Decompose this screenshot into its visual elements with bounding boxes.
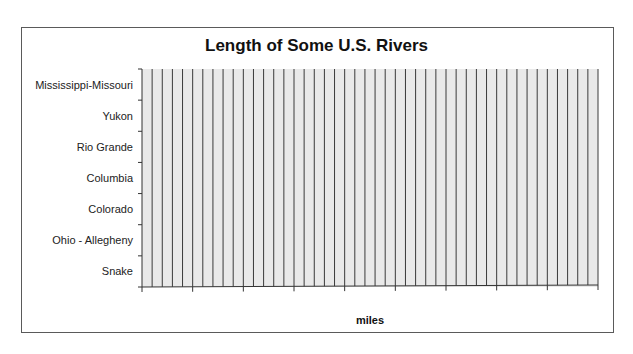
category-label: Yukon [102,110,133,123]
category-label: Ohio - Allegheny [52,234,133,247]
y-axis-ticks [138,69,142,287]
category-label: Colorado [88,203,133,216]
category-label: Snake [102,265,133,278]
x-axis-label: miles [142,314,598,326]
category-label: Columbia [87,172,133,185]
category-label: Mississippi-Missouri [35,79,133,92]
plot-background [142,69,598,287]
category-label: Rio Grande [77,141,133,154]
